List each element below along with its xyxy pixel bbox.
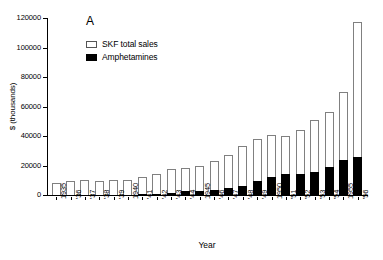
x-tick: '36 [63,197,77,237]
x-tick: '51 [279,197,293,237]
y-tick-label: 120000 [17,12,41,23]
bar-segment-skf-total-sales[interactable] [281,136,290,174]
x-tick-mark [358,197,359,200]
x-tick-mark [185,197,186,200]
x-tick: '52 [293,197,307,237]
bar-segment-skf-total-sales[interactable] [267,135,276,178]
bar-group[interactable] [135,18,149,195]
y-tick-label: 60000 [21,101,41,112]
x-tick-mark [157,197,158,200]
x-tick-mark [300,197,301,200]
bar-segment-skf-total-sales[interactable] [339,92,348,161]
x-tick-mark [272,197,273,200]
x-tick: '48 [236,197,250,237]
x-tick-mark [214,197,215,200]
x-tick-mark [243,197,244,200]
bar-group[interactable] [250,18,264,195]
x-tick-mark [228,197,229,200]
x-tick: '43 [164,197,178,237]
bar-group[interactable] [336,18,350,195]
bar-group[interactable] [121,18,135,195]
x-tick: '53 [307,197,321,237]
x-tick-mark [85,197,86,200]
x-tick-mark [343,197,344,200]
bar-segment-skf-total-sales[interactable] [325,112,334,167]
x-tick-mark [56,197,57,200]
x-tick: '46 [207,197,221,237]
bar-stack[interactable] [339,92,348,195]
plot-area: 020000400006000080000100000120000 [47,18,367,195]
x-tick: '41 [135,197,149,237]
x-tick: '47 [221,197,235,237]
bar-group[interactable] [351,18,365,195]
bar-group[interactable] [63,18,77,195]
bar-group[interactable] [264,18,278,195]
x-tick-mark [71,197,72,200]
y-tick-label: 100000 [17,42,41,53]
x-tick: '49 [250,197,264,237]
x-tick: '56 [351,197,365,237]
bar-group[interactable] [178,18,192,195]
bar-group[interactable] [49,18,63,195]
y-tick-label: 0 [37,189,41,200]
x-axis-ticks: 1935'36'37'38'391940'41'42'43'441945'46'… [47,197,367,237]
x-tick: '42 [150,197,164,237]
bar-series-container [47,18,367,195]
bar-stack[interactable] [325,112,334,195]
y-tick-mark [43,195,47,196]
x-tick: 1945 [193,197,207,237]
bar-segment-skf-total-sales[interactable] [253,139,262,181]
bar-group[interactable] [293,18,307,195]
y-tick-label: 40000 [21,130,41,141]
x-tick-mark [286,197,287,200]
x-tick-mark [114,197,115,200]
bar-group[interactable] [92,18,106,195]
bar-group[interactable] [150,18,164,195]
x-tick-mark [257,197,258,200]
bar-stack[interactable] [353,22,362,195]
bar-group[interactable] [279,18,293,195]
x-tick-mark [200,197,201,200]
bar-stack[interactable] [253,139,262,195]
bar-stack[interactable] [310,120,319,195]
x-tick: '44 [178,197,192,237]
x-tick: 1950 [264,197,278,237]
bar-group[interactable] [307,18,321,195]
x-tick-label: '56 [361,190,369,199]
bar-group[interactable] [322,18,336,195]
bar-segment-skf-total-sales[interactable] [224,155,233,188]
x-tick: '39 [106,197,120,237]
chart-figure: A SKF total sales Amphetamines $ (thousa… [0,0,383,260]
bar-stack[interactable] [296,130,305,195]
x-axis-title: Year [47,240,367,250]
x-tick: 1940 [121,197,135,237]
x-tick-mark [128,197,129,200]
x-tick-mark [171,197,172,200]
bar-segment-skf-total-sales[interactable] [310,120,319,172]
x-tick-mark [99,197,100,200]
bar-segment-skf-total-sales[interactable] [296,130,305,174]
bar-group[interactable] [193,18,207,195]
x-tick: 1955 [336,197,350,237]
bar-segment-skf-total-sales[interactable] [181,168,190,191]
bar-group[interactable] [207,18,221,195]
bar-group[interactable] [164,18,178,195]
y-tick-label: 80000 [21,71,41,82]
x-tick: '54 [322,197,336,237]
y-tick-label: 20000 [21,160,41,171]
bar-group[interactable] [221,18,235,195]
bar-stack[interactable] [238,146,247,195]
bar-group[interactable] [106,18,120,195]
bar-segment-skf-total-sales[interactable] [238,146,247,186]
x-tick-mark [142,197,143,200]
bar-group[interactable] [236,18,250,195]
bar-segment-skf-total-sales[interactable] [353,22,362,156]
bar-group[interactable] [78,18,92,195]
x-tick: 1935 [49,197,63,237]
x-tick-mark [329,197,330,200]
x-tick: '38 [92,197,106,237]
x-tick-mark [315,197,316,200]
x-tick: '37 [78,197,92,237]
